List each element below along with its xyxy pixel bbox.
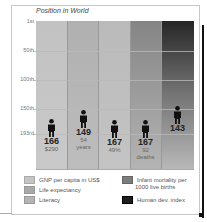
legend-swatch xyxy=(24,186,35,194)
value-label: 54 xyxy=(68,137,99,144)
legend-label: Infant mortality per xyxy=(137,177,187,183)
ytick-193rd: 193rd xyxy=(12,130,34,136)
legend-label: 1000 live births xyxy=(135,184,175,190)
person-icon xyxy=(79,110,88,128)
value-label: 49% xyxy=(99,147,130,154)
marker-human-dev-index: 143 xyxy=(162,106,193,133)
legend-label: Human dev. index xyxy=(137,197,185,203)
person-icon xyxy=(173,106,182,124)
legend-item-infant-mortality-line2: 1000 live births xyxy=(135,184,175,190)
legend-label: Literacy xyxy=(39,197,60,203)
legend-item-life-expectancy: Life expectancy xyxy=(24,186,81,194)
rank-value: 149 xyxy=(68,128,99,137)
marker-gnp: 166 $290 xyxy=(36,119,67,153)
page-edge-corner xyxy=(199,213,204,217)
marker-literacy: 167 49% xyxy=(99,120,130,154)
legend-swatch xyxy=(24,196,35,204)
page-edge xyxy=(202,25,204,218)
legend-item-infant-mortality: Infant mortality per xyxy=(122,176,187,184)
rank-value: 143 xyxy=(162,124,193,133)
column-human-dev-index xyxy=(162,21,194,169)
value-label: $290 xyxy=(36,146,67,153)
person-icon xyxy=(110,120,119,138)
rank-value: 166 xyxy=(36,137,67,146)
rank-value: 167 xyxy=(130,138,161,147)
marker-infant-mortality: 167 92 deaths xyxy=(130,120,161,161)
value-label: 92 xyxy=(130,147,161,154)
legend-swatch xyxy=(122,176,133,184)
legend-swatch xyxy=(122,196,133,204)
gridline-50th xyxy=(33,51,194,52)
ytick-50th: 50th xyxy=(12,47,34,53)
legend-label: Life expectancy xyxy=(39,187,81,193)
legend-item-gnp: GNP per capita in US$ xyxy=(24,176,100,184)
legend-label: GNP per capita in US$ xyxy=(39,177,100,183)
ytick-1st: 1st xyxy=(12,18,34,24)
ytick-150th: 150th xyxy=(12,105,34,111)
legend-item-literacy: Literacy xyxy=(24,196,60,204)
legend-swatch xyxy=(24,176,35,184)
page-rule xyxy=(0,213,12,214)
rank-value: 167 xyxy=(99,138,130,147)
value-unit: years xyxy=(68,144,99,151)
person-icon xyxy=(141,120,150,138)
marker-life-expectancy: 149 54 years xyxy=(68,110,99,151)
legend-item-human-dev-index: Human dev. index xyxy=(122,196,185,204)
gridline-100th xyxy=(33,80,194,81)
ytick-100th: 100th xyxy=(12,76,34,82)
chart-title: Position in World xyxy=(36,7,89,14)
person-icon xyxy=(47,119,56,137)
value-unit: deaths xyxy=(130,154,161,161)
